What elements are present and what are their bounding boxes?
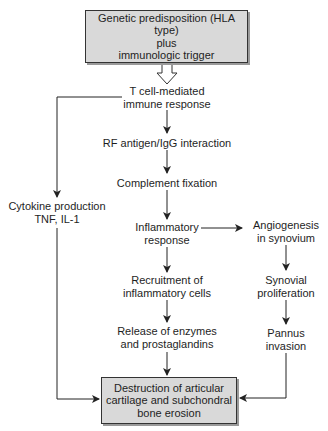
- node-recruitment: Recruitment of inflammatory cells: [117, 274, 217, 299]
- node-start: Genetic predisposition (HLA type) plus i…: [85, 10, 248, 63]
- edge-pannus-end: [240, 353, 286, 398]
- node-cytokine-line-2: TNF, IL-1: [2, 213, 112, 226]
- node-release-line-2: and prostaglandins: [112, 338, 222, 351]
- node-angiogenesis-line-2: in synovium: [246, 232, 326, 245]
- node-angiogenesis-line-1: Angiogenesis: [246, 219, 326, 232]
- node-angiogenesis: Angiogenesis in synovium: [246, 219, 326, 244]
- node-end: Destruction of articular cartilage and s…: [101, 377, 237, 424]
- node-tcell-line-1: T cell-mediated: [117, 85, 217, 98]
- node-recruitment-line-1: Recruitment of: [117, 274, 217, 287]
- node-end-line-3: bone erosion: [137, 407, 201, 420]
- node-start-line-1: Genetic predisposition (HLA type): [86, 12, 247, 37]
- hollow-arrow-icon: [157, 63, 177, 84]
- node-rf: RF antigen/IgG interaction: [97, 137, 237, 150]
- node-start-line-3: immunologic trigger: [119, 49, 215, 62]
- node-rf-line-1: RF antigen/IgG interaction: [97, 137, 237, 150]
- node-pannus-line-2: invasion: [256, 340, 316, 353]
- node-recruitment-line-2: inflammatory cells: [117, 287, 217, 300]
- edge-cytokine-end: [57, 228, 99, 399]
- node-end-line-1: Destruction of articular: [114, 382, 224, 395]
- node-tcell: T cell-mediated immune response: [117, 85, 217, 110]
- node-complement: Complement fixation: [107, 177, 227, 190]
- node-release-line-1: Release of enzymes: [112, 325, 222, 338]
- node-inflammatory-line-1: Inflammatory: [127, 221, 207, 234]
- node-inflammatory: Inflammatory response: [127, 221, 207, 246]
- node-cytokine-line-1: Cytokine production: [2, 200, 112, 213]
- node-cytokine: Cytokine production TNF, IL-1: [2, 200, 112, 225]
- node-pannus-line-1: Pannus: [256, 327, 316, 340]
- node-start-line-2: plus: [156, 37, 176, 50]
- node-complement-line-1: Complement fixation: [107, 177, 227, 190]
- node-tcell-line-2: immune response: [117, 98, 217, 111]
- node-synovial: Synovial proliferation: [251, 274, 321, 299]
- node-end-line-2: cartilage and subchondral: [106, 394, 232, 407]
- node-inflammatory-line-2: response: [127, 234, 207, 247]
- node-release: Release of enzymes and prostaglandins: [112, 325, 222, 350]
- node-pannus: Pannus invasion: [256, 327, 316, 352]
- node-synovial-line-1: Synovial: [251, 274, 321, 287]
- node-synovial-line-2: proliferation: [251, 287, 321, 300]
